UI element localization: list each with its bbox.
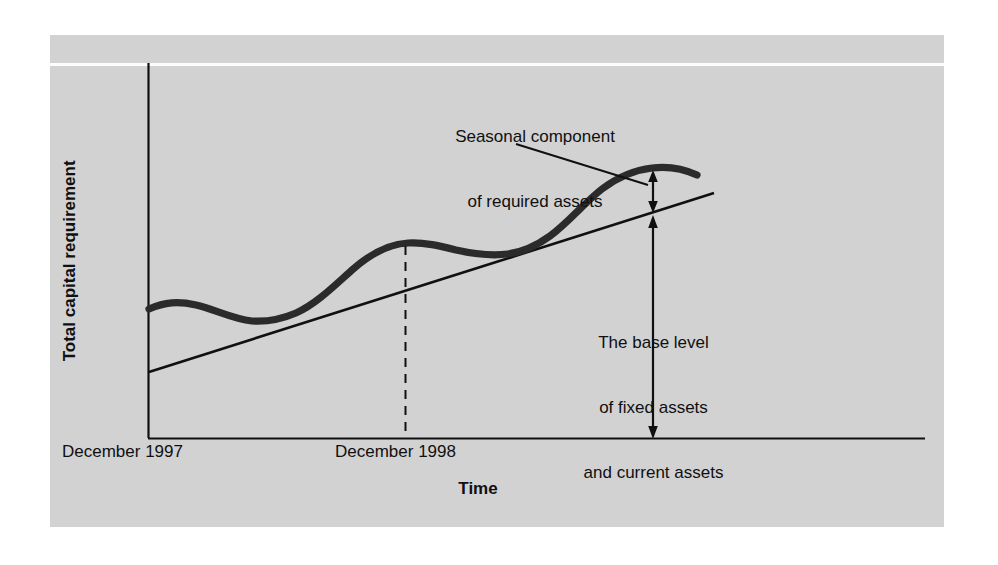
x-tick-label-december-1998: December 1998	[335, 441, 456, 463]
annotation-seasonal-line-1: Seasonal component	[404, 126, 666, 148]
y-axis-label: Total capital requirement	[59, 131, 81, 391]
annotation-base-line-2: of fixed assets	[527, 397, 780, 419]
x-tick-label-december-1997: December 1997	[62, 441, 183, 463]
annotation-base-line-1: The base level	[527, 332, 780, 354]
annotation-seasonal-component: Seasonal component of required assets	[404, 82, 666, 256]
annotation-base-line-3: and current assets	[527, 462, 780, 484]
figure-container: Total capital requirement Time December …	[0, 0, 998, 565]
annotation-base-level: The base level of fixed assets and curre…	[527, 288, 780, 527]
annotation-seasonal-line-2: of required assets	[404, 191, 666, 213]
